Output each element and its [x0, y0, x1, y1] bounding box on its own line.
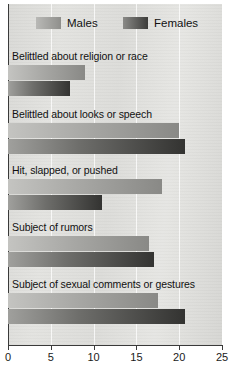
bar-females — [8, 139, 185, 154]
gridline-20 — [179, 4, 180, 345]
bar-males — [8, 179, 162, 194]
x-tick-label-5: 5 — [48, 351, 54, 363]
bar-chart: 0510152025 Males Females Belittled about… — [0, 0, 231, 371]
x-tick-5 — [51, 345, 52, 350]
x-tick-label-25: 25 — [216, 351, 228, 363]
x-tick-15 — [136, 345, 137, 350]
x-tick-label-10: 10 — [87, 351, 99, 363]
bar-females — [8, 252, 154, 267]
x-tick-20 — [179, 345, 180, 350]
category-label: Subject of sexual comments or gestures — [12, 278, 195, 290]
males-swatch-icon — [36, 17, 61, 29]
legend-label-females: Females — [154, 17, 198, 29]
bar-males — [8, 123, 179, 138]
x-tick-10 — [94, 345, 95, 350]
bar-males — [8, 65, 85, 80]
bar-females — [8, 195, 102, 210]
category-label: Belittled about religion or race — [12, 50, 148, 62]
category-label: Subject of rumors — [12, 221, 93, 233]
bar-females — [8, 309, 185, 324]
x-tick-25 — [222, 345, 223, 350]
bar-females — [8, 81, 70, 96]
females-swatch-icon — [123, 17, 148, 29]
chart-legend: Males Females — [0, 17, 214, 31]
x-tick-label-20: 20 — [173, 351, 185, 363]
bar-males — [8, 293, 158, 308]
legend-item-females[interactable]: Females — [123, 17, 198, 29]
x-tick-label-0: 0 — [5, 351, 11, 363]
x-axis-line — [8, 345, 222, 346]
category-label: Belittled about looks or speech — [12, 108, 152, 120]
legend-label-males: Males — [67, 17, 98, 29]
category-label: Hit, slapped, or pushed — [12, 164, 118, 176]
gridline-25 — [222, 4, 223, 345]
legend-item-males[interactable]: Males — [36, 17, 98, 29]
x-tick-0 — [8, 345, 9, 350]
bar-males — [8, 236, 149, 251]
x-tick-label-15: 15 — [130, 351, 142, 363]
